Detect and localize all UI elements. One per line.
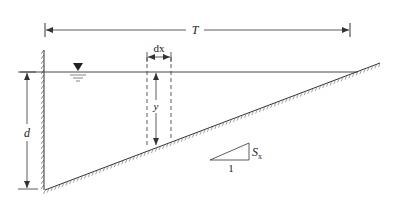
vertical-wall xyxy=(41,50,44,190)
top-width-dimension: T xyxy=(45,23,350,37)
local-depth-dimension: y xyxy=(153,73,159,145)
local-depth-label: y xyxy=(153,100,159,112)
slope-hatching xyxy=(44,64,381,195)
strip-width-label: dx xyxy=(154,42,166,54)
top-width-label: T xyxy=(192,23,200,37)
slope-run-label: 1 xyxy=(228,162,234,174)
depth-dimension: d xyxy=(18,72,38,189)
depth-label: d xyxy=(24,126,31,140)
slope-triangle: 1 Sx xyxy=(210,143,262,174)
gutter-diagram: T d dx xyxy=(0,0,403,202)
slope-rise-label: Sx xyxy=(252,145,262,161)
sloped-bottom xyxy=(44,63,381,194)
strip-dx: dx xyxy=(147,42,171,148)
